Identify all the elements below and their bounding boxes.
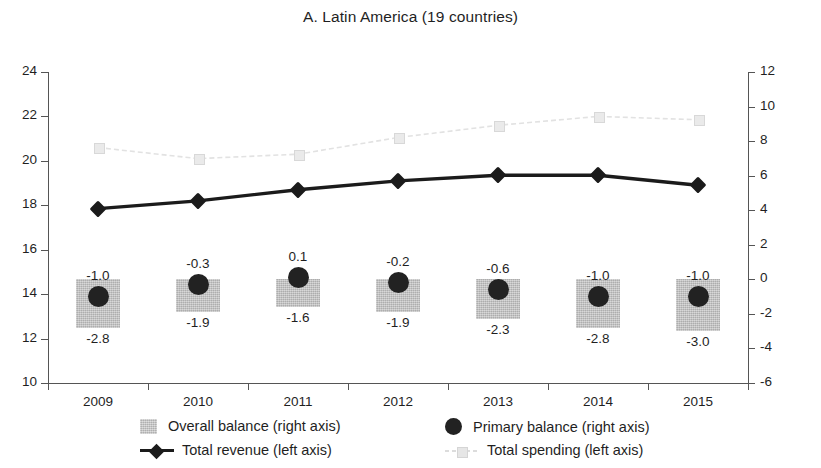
overall-balance-value-label: -2.8	[63, 331, 133, 346]
x-axis-year-label: 2012	[363, 394, 433, 409]
primary-balance-value-label: -1.0	[63, 268, 133, 283]
primary-balance-dot	[388, 272, 409, 293]
overall-balance-value-label: -1.9	[363, 315, 433, 330]
right-tick-label: 2	[760, 236, 768, 251]
right-tick-label: 12	[760, 63, 775, 78]
right-tick-mark	[748, 176, 755, 177]
total-spending-marker	[294, 150, 305, 161]
left-tick-mark	[41, 250, 48, 251]
right-tick-label: -6	[760, 374, 772, 389]
right-tick-mark	[748, 348, 755, 349]
legend-item[interactable]: Primary balance (right axis)	[445, 418, 649, 435]
primary-balance-value-label: 0.1	[263, 249, 333, 264]
right-tick-mark	[748, 245, 755, 246]
legend-item[interactable]: Total revenue (left axis)	[140, 442, 332, 458]
overall-balance-value-label: -3.0	[663, 334, 733, 349]
right-tick-mark	[748, 210, 755, 211]
total-spending-marker	[94, 143, 105, 154]
primary-balance-dot	[288, 267, 309, 288]
x-tick-mark	[248, 383, 249, 390]
right-tick-mark	[748, 279, 755, 280]
right-tick-mark	[748, 107, 755, 108]
legend-bar-swatch-icon	[140, 419, 157, 434]
right-tick-label: 8	[760, 132, 768, 147]
overall-balance-value-label: -2.8	[563, 331, 633, 346]
right-tick-mark	[748, 141, 755, 142]
left-tick-mark	[41, 205, 48, 206]
left-tick-label: 22	[22, 107, 37, 122]
legend-line-square-icon	[445, 443, 479, 457]
primary-balance-dot	[188, 274, 209, 295]
total-spending-marker	[694, 115, 705, 126]
right-tick-mark	[748, 72, 755, 73]
legend-line-diamond-icon	[140, 443, 174, 457]
right-tick-label: -4	[760, 339, 772, 354]
right-tick-label: -2	[760, 305, 772, 320]
left-tick-label: 16	[22, 241, 37, 256]
left-tick-mark	[41, 161, 48, 162]
x-axis-year-label: 2009	[63, 394, 133, 409]
total-spending-marker	[394, 133, 405, 144]
x-axis-year-label: 2013	[463, 394, 533, 409]
total-spending-marker	[194, 154, 205, 165]
right-tick-label: 6	[760, 167, 768, 182]
x-axis-year-label: 2011	[263, 394, 333, 409]
x-tick-mark	[448, 383, 449, 390]
x-axis-year-label: 2010	[163, 394, 233, 409]
overall-balance-value-label: -1.6	[263, 310, 333, 325]
primary-balance-value-label: -1.0	[563, 268, 633, 283]
legend-item-label: Overall balance (right axis)	[168, 418, 340, 434]
left-tick-label: 24	[22, 63, 37, 78]
overall-balance-value-label: -1.9	[163, 315, 233, 330]
left-tick-label: 12	[22, 330, 37, 345]
legend-item[interactable]: Total spending (left axis)	[445, 442, 643, 458]
left-tick-label: 14	[22, 285, 37, 300]
legend-circle-marker-icon	[445, 418, 462, 435]
left-tick-mark	[41, 383, 48, 384]
legend-item-label: Primary balance (right axis)	[473, 419, 649, 435]
chart-title: A. Latin America (19 countries)	[0, 8, 821, 26]
x-tick-mark	[148, 383, 149, 390]
x-tick-mark	[648, 383, 649, 390]
legend-item-label: Total revenue (left axis)	[182, 442, 332, 458]
right-tick-label: 4	[760, 201, 768, 216]
right-tick-mark	[748, 383, 755, 384]
primary-balance-value-label: -0.6	[463, 261, 533, 276]
x-tick-mark	[548, 383, 549, 390]
left-tick-mark	[41, 339, 48, 340]
x-axis-year-label: 2014	[563, 394, 633, 409]
left-tick-label: 18	[22, 196, 37, 211]
primary-balance-value-label: -1.0	[663, 268, 733, 283]
total-spending-marker	[494, 121, 505, 132]
chart-figure: A. Latin America (19 countries) 10121416…	[0, 0, 821, 468]
left-tick-mark	[41, 72, 48, 73]
left-tick-label: 10	[22, 374, 37, 389]
primary-balance-value-label: -0.2	[363, 254, 433, 269]
left-tick-label: 20	[22, 152, 37, 167]
x-tick-mark	[48, 383, 49, 390]
x-tick-mark	[748, 383, 749, 390]
right-tick-label: 10	[760, 98, 775, 113]
primary-balance-value-label: -0.3	[163, 256, 233, 271]
bottom-axis-line	[48, 383, 748, 384]
total-spending-marker	[594, 112, 605, 123]
chart-legend: Overall balance (right axis)Primary bala…	[140, 418, 740, 464]
overall-balance-value-label: -2.3	[463, 322, 533, 337]
left-tick-mark	[41, 116, 48, 117]
primary-balance-dot	[88, 286, 109, 307]
line-series-layer	[48, 72, 748, 383]
primary-balance-dot	[688, 286, 709, 307]
right-tick-mark	[748, 314, 755, 315]
primary-balance-dot	[488, 279, 509, 300]
legend-item[interactable]: Overall balance (right axis)	[140, 418, 340, 434]
primary-balance-dot	[588, 286, 609, 307]
legend-item-label: Total spending (left axis)	[487, 442, 643, 458]
left-tick-mark	[41, 294, 48, 295]
right-axis-line	[748, 72, 749, 383]
x-tick-mark	[348, 383, 349, 390]
plot-area: 1012141618202224 -6-4-2024681012 2009201…	[48, 72, 748, 383]
right-tick-label: 0	[760, 270, 768, 285]
x-axis-year-label: 2015	[663, 394, 733, 409]
